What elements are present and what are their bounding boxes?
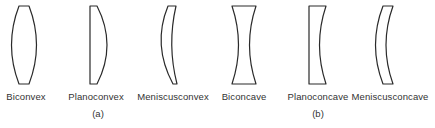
meniscusconcave-lens-shape xyxy=(376,6,394,84)
planoconcave-label: Planoconcave xyxy=(288,91,349,102)
lens-shapes xyxy=(0,0,435,128)
biconcave-label: Biconcave xyxy=(222,91,267,102)
planoconvex-label: Planoconvex xyxy=(68,91,124,102)
group-a-label: (a) xyxy=(92,108,104,119)
biconcave-lens-shape xyxy=(232,6,256,84)
planoconcave-lens-shape xyxy=(309,6,326,84)
biconvex-label: Biconvex xyxy=(6,91,45,102)
meniscusconvex-label: Meniscusconvex xyxy=(137,91,209,102)
group-b-label: (b) xyxy=(312,108,324,119)
meniscusconvex-lens-shape xyxy=(161,6,177,84)
meniscusconcave-label: Meniscusconcave xyxy=(351,91,428,102)
planoconvex-lens-shape xyxy=(90,6,107,84)
biconvex-lens-shape xyxy=(12,6,37,84)
